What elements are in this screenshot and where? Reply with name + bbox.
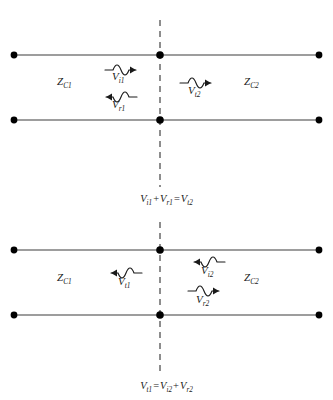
boundary-equation-top: Vi1+Vr1=Vt2 <box>0 193 333 207</box>
impedance-label-left: ZC1 <box>57 76 72 90</box>
transmitted-wave-left-label: Vt1 <box>118 276 130 290</box>
equation-operator-equals: = <box>152 380 160 391</box>
terminal-node-upper-left <box>11 247 18 254</box>
figure-top-junction: ZC1 ZC2 Vi1 Vr1 Vt2 Vi1+Vr1=Vt2 <box>0 0 333 210</box>
figure-bottom-junction: ZC1 ZC2 Vt1 Vi2 Vr2 Vt1=Vi2+Vr2 <box>0 210 333 400</box>
junction-node-lower <box>156 116 164 124</box>
reflected-wave-right-label: Vr2 <box>196 294 209 308</box>
terminal-node-lower-left <box>11 312 18 319</box>
incident-wave-right-label: Vi2 <box>201 265 213 279</box>
terminal-node-upper-left <box>11 52 18 59</box>
boundary-equation-bottom: Vt1=Vi2+Vr2 <box>0 380 333 394</box>
terminal-node-lower-left <box>11 117 18 124</box>
transmitted-wave-right-label: Vt2 <box>188 85 200 99</box>
junction-node-upper <box>156 246 164 254</box>
incident-wave-left-label: Vi1 <box>112 71 124 85</box>
impedance-label-right: ZC2 <box>244 76 259 90</box>
junction-node-upper <box>156 51 164 59</box>
terminal-node-upper-right <box>316 52 323 59</box>
reflected-wave-left-label: Vr1 <box>112 99 125 113</box>
equation-operator-plus: + <box>152 193 160 204</box>
equation-operator-plus: + <box>172 380 180 391</box>
impedance-label-left: ZC1 <box>57 272 72 286</box>
terminal-node-upper-right <box>316 247 323 254</box>
terminal-node-lower-right <box>316 312 323 319</box>
bottom-schematic <box>0 210 333 400</box>
terminal-node-lower-right <box>316 117 323 124</box>
equation-operator-equals: = <box>173 193 181 204</box>
junction-node-lower <box>156 311 164 319</box>
impedance-label-right: ZC2 <box>244 272 259 286</box>
top-schematic <box>0 0 333 210</box>
